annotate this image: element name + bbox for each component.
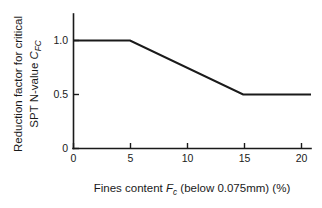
y-axis-title-line2-subscript: FC — [34, 40, 43, 51]
chart-canvas: 0 0.5 1.0 0 5 10 15 20 Fines content Fc … — [0, 0, 322, 208]
x-axis-title-suffix: (below 0.075mm) (%) — [177, 182, 290, 194]
y-tick-label-1.0: 1.0 — [53, 34, 68, 46]
x-tick-label-15: 15 — [239, 152, 251, 164]
y-axis-title-line2: SPT N-value CFC — [28, 40, 43, 128]
x-axis-title-prefix: Fines content — [94, 182, 166, 194]
data-series-line — [74, 41, 312, 95]
x-tick-label-5: 5 — [128, 152, 134, 164]
y-axis-ticks — [74, 41, 80, 149]
x-tick-label-20: 20 — [296, 152, 308, 164]
chart-figure: 0 0.5 1.0 0 5 10 15 20 Fines content Fc … — [0, 0, 322, 208]
y-axis-title-line2-prefix: SPT N-value — [28, 60, 40, 128]
x-axis-ticks — [74, 143, 302, 149]
y-tick-label-0: 0 — [62, 142, 68, 154]
x-tick-label-10: 10 — [182, 152, 194, 164]
y-axis-title-line1: Reduction factor for critical — [12, 16, 24, 152]
y-tick-label-0.5: 0.5 — [53, 88, 68, 100]
x-tick-label-0: 0 — [71, 152, 77, 164]
x-axis-title: Fines content Fc (below 0.075mm) (%) — [94, 182, 291, 197]
